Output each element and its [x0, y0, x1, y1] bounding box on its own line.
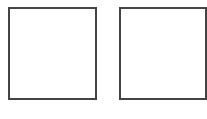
right-empty-square: [119, 7, 207, 100]
left-empty-square: [8, 7, 97, 100]
